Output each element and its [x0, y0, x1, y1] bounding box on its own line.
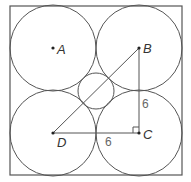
point-d-dot: [51, 131, 54, 134]
label-d: D: [57, 135, 66, 150]
point-c-dot: [137, 131, 140, 134]
label-c: C: [143, 127, 153, 142]
point-a-dot: [51, 46, 54, 49]
label-a: A: [56, 42, 66, 57]
geometry-diagram: A B C D 6 6: [0, 0, 191, 182]
label-b: B: [143, 41, 152, 56]
measure-bc: 6: [142, 97, 149, 111]
point-b-dot: [137, 46, 140, 49]
measure-dc: 6: [105, 135, 112, 149]
segment-db: [53, 48, 139, 133]
